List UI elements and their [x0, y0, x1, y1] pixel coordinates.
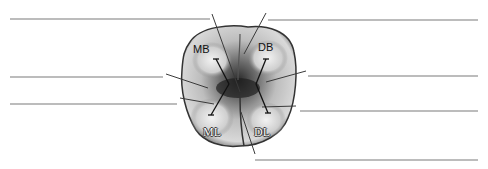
cusp-label-mb: MB	[193, 43, 210, 55]
cusp-label-ml: ML	[203, 125, 221, 140]
tooth-diagram: MB DB ML DL	[0, 0, 488, 169]
cusp-label-db: DB	[258, 41, 273, 53]
diagram-svg	[0, 0, 488, 169]
cusp-label-dl: DL	[254, 125, 270, 140]
